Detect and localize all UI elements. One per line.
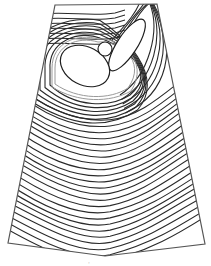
contour-line bbox=[0, 213, 211, 262]
contour-line bbox=[0, 173, 211, 225]
contour-line bbox=[0, 80, 211, 139]
contour-line bbox=[0, 100, 211, 157]
contour-lines bbox=[0, 2, 211, 263]
inner-shapes bbox=[53, 14, 152, 95]
contour-figure bbox=[0, 0, 211, 266]
small-circle bbox=[98, 42, 112, 56]
bottom-mark: · bbox=[88, 259, 90, 266]
